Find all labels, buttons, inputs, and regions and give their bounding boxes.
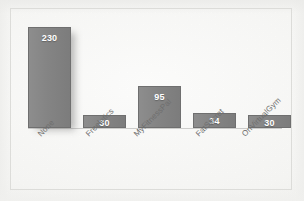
bar-value-myfitnesspal: 95 bbox=[139, 92, 180, 102]
bar-none[interactable]: 230 bbox=[28, 27, 71, 128]
plot-area: 230 30 95 34 30 None Freeletics MyFitnes… bbox=[10, 8, 292, 190]
bar-value-none: 230 bbox=[29, 33, 70, 43]
chart-screenshot: 230 30 95 34 30 None Freeletics MyFitnes… bbox=[0, 0, 304, 201]
